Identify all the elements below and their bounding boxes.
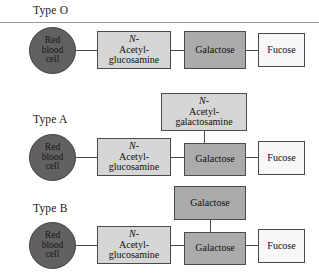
rbc-line3: cell	[46, 250, 60, 260]
type-label-b: Type B	[33, 202, 68, 214]
box-line1: N-Acetyl-	[119, 229, 149, 251]
italic-n-prefix: N-	[119, 34, 149, 45]
box-line1: N-Acetyl-	[119, 141, 149, 163]
box-line1: Fucose	[267, 153, 295, 164]
box-o-galactose: Galactose	[184, 31, 246, 69]
box-line1: Fucose	[267, 241, 295, 252]
box-b-galactose-branch: Galactose	[174, 186, 246, 220]
box-line2: glucosamine	[109, 55, 160, 66]
connector-a-glcnac-to-gal	[171, 157, 185, 158]
box-b-n-acetylglucosamine: N-Acetyl- glucosamine	[97, 226, 171, 264]
box-line1: Galactose	[195, 243, 234, 254]
box-a-fucose: Fucose	[258, 141, 305, 175]
red-blood-cell-b: Red blood cell	[29, 222, 76, 269]
red-blood-cell-o: Red blood cell	[29, 27, 76, 74]
rbc-line3: cell	[46, 162, 60, 172]
rbc-line3: cell	[46, 55, 60, 65]
box-line1: Galactose	[195, 154, 234, 165]
box-line1: Fucose	[267, 45, 295, 56]
red-blood-cell-a: Red blood cell	[29, 134, 76, 181]
box-line2: glucosamine	[109, 250, 160, 261]
box-b-fucose: Fucose	[258, 229, 305, 263]
box-line1: Galactose	[195, 45, 234, 56]
connector-a-cell-to-glcnac	[76, 157, 98, 158]
type-label-o: Type O	[33, 4, 68, 16]
box-line1: N-Acetyl-	[189, 96, 219, 118]
italic-n-prefix: N-	[189, 96, 219, 107]
box-line2: glucosamine	[109, 162, 160, 173]
box-a-galactose: Galactose	[184, 143, 246, 176]
box-o-fucose: Fucose	[258, 33, 305, 67]
italic-n-prefix: N-	[119, 229, 149, 240]
italic-n-prefix: N-	[119, 141, 149, 152]
box-line1: Galactose	[190, 198, 229, 209]
connector-o-glcnac-to-gal	[171, 50, 185, 51]
box-line2: galactosamine	[175, 117, 232, 128]
connector-o-cell-to-glcnac	[76, 50, 98, 51]
connector-b-glcnac-to-gal	[171, 245, 185, 246]
box-o-n-acetylglucosamine: N-Acetyl- glucosamine	[97, 31, 171, 69]
blood-type-diagram: Type O Red blood cell N-Acetyl- glucosam…	[0, 0, 319, 279]
box-a-n-acetylgalactosamine-branch: N-Acetyl- galactosamine	[161, 93, 247, 131]
box-b-galactose: Galactose	[184, 232, 246, 265]
box-a-n-acetylglucosamine: N-Acetyl- glucosamine	[97, 138, 171, 176]
type-label-a: Type A	[33, 113, 68, 125]
header-divider	[0, 22, 319, 23]
connector-b-cell-to-glcnac	[76, 245, 98, 246]
box-line1: N-Acetyl-	[119, 34, 149, 56]
